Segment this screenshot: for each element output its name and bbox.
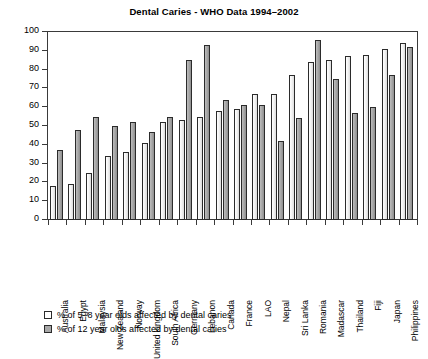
x-axis-label: Egypt — [79, 274, 88, 298]
bar-5-8-year-olds — [160, 122, 166, 220]
bar-group — [362, 32, 380, 220]
bar-5-8-year-olds — [197, 117, 203, 220]
chart-title: Dental Caries - WHO Data 1994–2002 — [0, 6, 428, 17]
x-axis-tick-mark — [196, 220, 197, 225]
bar-12-year-olds — [93, 117, 99, 220]
bar-5-8-year-olds — [50, 186, 56, 220]
bar-5-8-year-olds — [179, 120, 185, 220]
bar-12-year-olds — [75, 130, 81, 220]
y-axis-tick-label: 80 — [29, 63, 39, 74]
y-axis-tick-label: 70 — [29, 81, 39, 92]
bar-12-year-olds — [186, 60, 192, 220]
bar-12-year-olds — [223, 100, 229, 220]
x-axis-label: Fiji — [374, 285, 383, 298]
y-axis-tick-label: 10 — [29, 194, 39, 205]
x-axis-label: Norway — [135, 267, 144, 298]
x-axis-label: Romania — [319, 262, 328, 298]
y-axis-tick-label: 100 — [24, 25, 39, 36]
x-axis-label: Madascar — [337, 259, 346, 298]
bar-group — [306, 32, 324, 220]
bar-5-8-year-olds — [363, 55, 369, 220]
legend-label: % of 5–8 year olds affected by dental ca… — [57, 310, 231, 320]
x-axis-label: Australia — [61, 263, 70, 298]
bar-5-8-year-olds — [326, 60, 332, 220]
legend-item: % of 12 year olds affected by dental car… — [44, 322, 344, 335]
y-axis-tick-label: 0 — [34, 213, 39, 224]
x-axis-label-text: Philippines — [411, 298, 420, 341]
y-axis-tick-label: 90 — [29, 44, 39, 55]
x-axis-label: Canada — [227, 266, 236, 298]
bar-group — [343, 32, 361, 220]
x-axis-tick-mark — [177, 220, 178, 225]
bar-group — [66, 32, 84, 220]
y-axis: 0102030405060708090100 — [0, 31, 47, 220]
bar-5-8-year-olds — [345, 56, 351, 220]
x-axis-label: New Zealand — [116, 246, 125, 298]
bar-12-year-olds — [315, 40, 321, 220]
bar-group — [399, 32, 417, 220]
x-axis-tick-mark — [306, 220, 307, 225]
y-axis-tick-label: 30 — [29, 157, 39, 168]
x-axis-tick-mark — [66, 220, 67, 225]
x-axis-tick-mark — [140, 220, 141, 225]
bar-5-8-year-olds — [216, 111, 222, 220]
x-axis-tick-mark — [233, 220, 234, 225]
x-axis-tick-mark — [214, 220, 215, 225]
x-axis-tick-mark — [362, 220, 363, 225]
bar-group — [196, 32, 214, 220]
legend-item: % of 5–8 year olds affected by dental ca… — [44, 308, 344, 321]
bar-5-8-year-olds — [271, 94, 277, 220]
x-axis-tick-mark — [269, 220, 270, 225]
bars-layer — [48, 32, 417, 220]
bar-5-8-year-olds — [234, 109, 240, 220]
y-axis-tick-label: 40 — [29, 138, 39, 149]
x-axis-tick-mark — [399, 220, 400, 225]
x-axis-label: Malaysia — [98, 262, 107, 298]
x-axis-label-text: Thailand — [356, 298, 365, 333]
bar-group — [85, 32, 103, 220]
bar-12-year-olds — [130, 122, 136, 220]
x-axis-tick-mark — [343, 220, 344, 225]
bar-12-year-olds — [241, 105, 247, 220]
bar-5-8-year-olds — [400, 43, 406, 220]
bar-12-year-olds — [112, 126, 118, 220]
x-axis-label: Philippines — [411, 255, 420, 298]
bar-12-year-olds — [204, 45, 210, 220]
x-axis-label: Nepal — [282, 274, 291, 298]
y-axis-tick-label: 60 — [29, 100, 39, 111]
bar-12-year-olds — [389, 75, 395, 220]
x-axis-label: South Africa — [171, 250, 180, 298]
bar-group — [269, 32, 287, 220]
bar-5-8-year-olds — [142, 143, 148, 220]
x-axis-tick-mark — [288, 220, 289, 225]
x-axis-labels: AustraliaEgyptMalaysiaNew ZealandNorwayU… — [48, 226, 417, 300]
bar-group — [251, 32, 269, 220]
bar-5-8-year-olds — [105, 156, 111, 220]
bar-5-8-year-olds — [289, 75, 295, 220]
legend-swatch-5-8-year-olds — [44, 311, 52, 319]
bar-5-8-year-olds — [308, 62, 314, 220]
bar-12-year-olds — [370, 107, 376, 220]
y-axis-tick-label: 20 — [29, 175, 39, 186]
x-axis-label: Japan — [393, 273, 402, 298]
x-axis-label-text: Fiji — [374, 298, 383, 311]
x-axis-label: Lebanon — [208, 263, 217, 298]
bar-5-8-year-olds — [382, 49, 388, 220]
bar-group — [380, 32, 398, 220]
x-axis-tick-mark — [122, 220, 123, 225]
x-axis-label: Sri Lanka — [301, 260, 310, 298]
bar-group — [214, 32, 232, 220]
legend-swatch-12-year-olds — [44, 325, 52, 333]
x-axis-tick-mark — [103, 220, 104, 225]
x-axis-label: France — [245, 270, 254, 298]
x-axis-tick-mark — [48, 220, 49, 225]
bar-group — [159, 32, 177, 220]
bar-12-year-olds — [278, 141, 284, 220]
bar-12-year-olds — [296, 118, 302, 220]
bar-group — [233, 32, 251, 220]
x-axis-tick-mark — [251, 220, 252, 225]
bar-12-year-olds — [259, 105, 265, 220]
bar-5-8-year-olds — [68, 184, 74, 220]
x-axis-tick-mark — [417, 220, 418, 225]
